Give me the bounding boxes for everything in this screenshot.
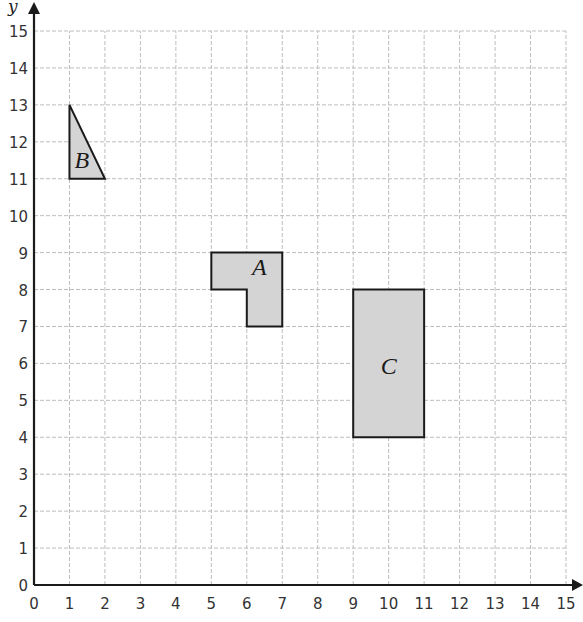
x-tick-label: 9 <box>348 595 358 613</box>
x-tick-label: 6 <box>242 595 252 613</box>
y-tick-label: 13 <box>9 97 28 115</box>
x-tick-label: 11 <box>415 595 434 613</box>
x-tick-label: 14 <box>521 595 540 613</box>
x-axis-arrow-icon <box>572 579 583 591</box>
shapes-layer <box>69 105 424 437</box>
shape-a-label: A <box>250 254 267 280</box>
y-tick-label: 2 <box>18 503 28 521</box>
coordinate-grid-figure: 0123456789101112131415012345678910111213… <box>0 0 583 622</box>
y-tick-label: 8 <box>18 282 28 300</box>
y-tick-label: 14 <box>9 60 28 78</box>
grid-lines <box>34 31 566 585</box>
x-tick-label: 15 <box>556 595 575 613</box>
y-tick-label: 0 <box>18 577 28 595</box>
y-tick-label: 10 <box>9 208 28 226</box>
x-tick-label: 2 <box>100 595 110 613</box>
x-tick-label: 12 <box>450 595 469 613</box>
y-axis-arrow-icon <box>28 2 40 14</box>
y-tick-label: 1 <box>18 540 28 558</box>
x-tick-label: 1 <box>65 595 75 613</box>
shape-a <box>211 253 282 327</box>
x-tick-label: 10 <box>379 595 398 613</box>
y-tick-label: 5 <box>18 392 28 410</box>
shape-b-label: B <box>75 147 90 173</box>
y-tick-label: 9 <box>18 245 28 263</box>
x-tick-label: 3 <box>136 595 146 613</box>
y-tick-label: 11 <box>9 171 28 189</box>
shape-c-label: C <box>381 353 398 379</box>
x-tick-label: 8 <box>313 595 323 613</box>
tick-labels: 0123456789101112131415012345678910111213… <box>9 23 576 613</box>
y-tick-label: 6 <box>18 355 28 373</box>
x-tick-label: 5 <box>207 595 217 613</box>
y-tick-label: 4 <box>18 429 28 447</box>
y-tick-label: 12 <box>9 134 28 152</box>
x-tick-label: 4 <box>171 595 181 613</box>
x-tick-label: 0 <box>29 595 39 613</box>
axes <box>28 2 583 591</box>
y-tick-label: 3 <box>18 466 28 484</box>
y-axis-label: y <box>7 0 18 16</box>
x-tick-label: 13 <box>486 595 505 613</box>
y-tick-label: 7 <box>18 318 28 336</box>
x-tick-label: 7 <box>277 595 287 613</box>
y-tick-label: 15 <box>9 23 28 41</box>
